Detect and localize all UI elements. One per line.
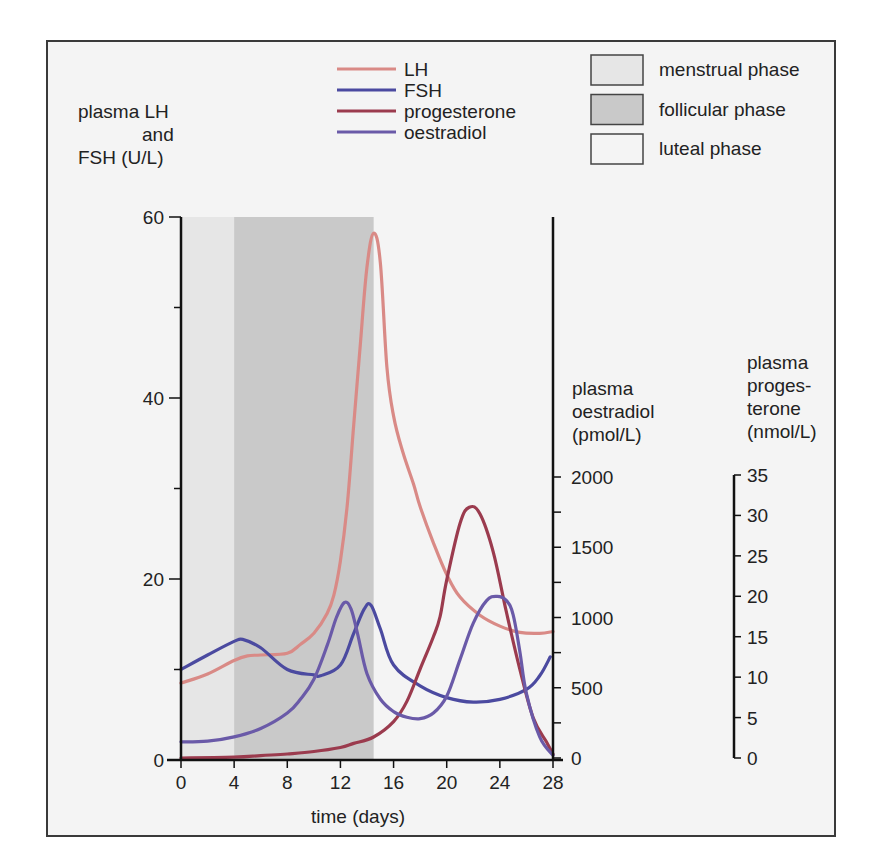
oestradiol-tick-label: 500 — [571, 678, 603, 699]
legend-label-oestradiol: oestradiol — [404, 122, 486, 143]
progesterone-tick-label: 20 — [747, 586, 768, 607]
x-tick-label: 16 — [383, 772, 404, 793]
legend-label-fsh: FSH — [404, 80, 442, 101]
progesterone-axis-title: plasma proges- terone (nmol/L) — [747, 351, 817, 443]
progesterone-axis-title-line: terone — [747, 397, 817, 420]
progesterone-tick-label: 5 — [747, 708, 758, 729]
x-tick-label: 12 — [330, 772, 351, 793]
x-tick-label: 20 — [436, 772, 457, 793]
x-axis-title: time (days) — [311, 805, 405, 828]
oestradiol-tick-label: 0 — [571, 748, 582, 769]
left-tick-label: 40 — [143, 388, 164, 409]
legend-label-progesterone: progesterone — [404, 101, 516, 122]
left-axis-title-line: plasma LH — [78, 100, 228, 123]
oestradiol-tick-label: 1000 — [571, 608, 613, 629]
oestradiol-axis-title-line: (pmol/L) — [572, 423, 654, 446]
legend-label-lh: LH — [404, 59, 428, 80]
oestradiol-axis-title-line: plasma — [572, 377, 654, 400]
x-tick-label: 24 — [489, 772, 511, 793]
left-tick-label: 60 — [143, 207, 164, 228]
progesterone-tick-label: 25 — [747, 546, 768, 567]
legend-phase-label-luteal: luteal phase — [659, 138, 761, 159]
legend-swatch-follicular — [591, 95, 643, 125]
phase-bands — [181, 217, 374, 760]
x-tick-label: 4 — [229, 772, 240, 793]
progesterone-axis-title-line: proges- — [747, 374, 817, 397]
legend-swatch-menstrual — [591, 55, 643, 85]
oestradiol-tick-label: 2000 — [571, 467, 613, 488]
oestradiol-axis-title: plasma oestradiol (pmol/L) — [572, 377, 654, 446]
oestradiol-tick-label: 1500 — [571, 537, 613, 558]
left-tick-label: 20 — [143, 569, 164, 590]
progesterone-tick-label: 30 — [747, 505, 768, 526]
progesterone-axis-title-line: (nmol/L) — [747, 420, 817, 443]
legend-swatch-luteal — [591, 134, 643, 164]
left-axis-title-line: FSH (U/L) — [78, 146, 228, 169]
phase-band-follicular — [234, 217, 374, 760]
legend-phase-label-menstrual: menstrual phase — [659, 59, 799, 80]
x-tick-label: 8 — [282, 772, 293, 793]
progesterone-tick-label: 35 — [747, 465, 768, 486]
progesterone-tick-label: 15 — [747, 627, 768, 648]
oestradiol-axis-title-line: oestradiol — [572, 400, 654, 423]
left-axis-title-line: and — [78, 123, 228, 146]
progesterone-tick-label: 10 — [747, 667, 768, 688]
left-axis-title: plasma LH and FSH (U/L) — [78, 100, 228, 169]
x-tick-label: 28 — [542, 772, 563, 793]
progesterone-axis-title-line: plasma — [747, 351, 817, 374]
legend-phase-label-follicular: follicular phase — [659, 99, 786, 120]
progesterone-tick-label: 0 — [747, 748, 758, 769]
legend: LHFSHprogesteroneoestradiolmenstrual pha… — [337, 55, 799, 164]
phase-band-menstrual — [181, 217, 234, 760]
x-tick-label: 0 — [176, 772, 187, 793]
left-tick-label: 0 — [153, 750, 164, 771]
